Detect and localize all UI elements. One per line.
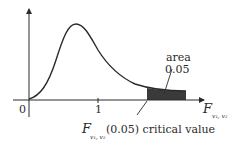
density-curve [29, 24, 186, 99]
x-axis-label-sub: v₁, v₂ [212, 112, 228, 119]
origin-label: 0 [19, 103, 26, 116]
critical-label-sub: v₁, v₂ [90, 133, 106, 140]
critical-leader-line [137, 101, 147, 115]
critical-label-suffix: (0.05) critical value [106, 123, 215, 136]
tick-label-1: 1 [95, 103, 102, 116]
f-distribution-diagram: 0 1 area 0.05 F v₁, v₂ F v₁, v₂ (0.05) c… [0, 0, 243, 155]
area-label-line2: 0.05 [165, 63, 190, 76]
